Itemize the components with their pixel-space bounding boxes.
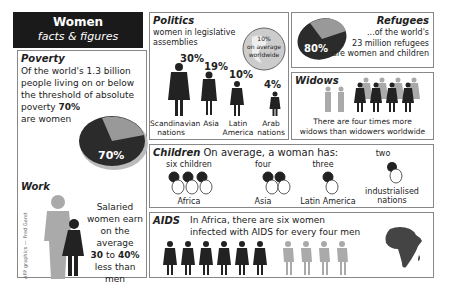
- poverty-pct: 70%: [59, 102, 81, 112]
- poverty-pie-chart: [78, 113, 150, 171]
- children-count-0: six children: [164, 160, 214, 169]
- politics-label-0: Scandinaviannations: [150, 119, 192, 137]
- header-banner: Women facts & figures: [13, 12, 143, 48]
- label-line1: Latin: [222, 119, 254, 128]
- widows-figures: [322, 77, 432, 115]
- children-intro: On average, a woman has:: [204, 147, 339, 158]
- work-line6: less than men: [84, 261, 146, 285]
- children-region-0: Africa: [164, 197, 214, 206]
- label-line2: America: [222, 128, 254, 137]
- label-line1: Asia: [200, 119, 222, 128]
- children-heading: Children On average, a woman has:: [153, 147, 338, 158]
- poverty-pie-label: 70%: [98, 149, 124, 162]
- aids-panel: AIDS In Africa, there are six women infe…: [149, 212, 434, 278]
- children-count-2: three: [308, 160, 338, 169]
- work-line2: women earn: [84, 213, 146, 225]
- africa-map-icon: [382, 225, 424, 271]
- poverty-title: Poverty: [21, 53, 65, 64]
- children-panel: Children On average, a woman has: six ch…: [149, 144, 434, 208]
- politics-label-3: Arabnations: [256, 119, 286, 137]
- children-region-1: Asia: [248, 197, 278, 206]
- header-title: Women: [13, 15, 143, 29]
- header-subtitle: facts & figures: [13, 30, 143, 43]
- politics-figures: [160, 63, 288, 118]
- mother-child-icon-industrialised: [380, 161, 410, 185]
- label-line1: Scandinavian: [150, 119, 192, 128]
- politics-label-1: Asia: [200, 119, 222, 128]
- children-region-3: industrialised nations: [362, 187, 422, 205]
- region-line2: nations: [362, 196, 422, 205]
- globe-line3: worldwide: [242, 51, 286, 59]
- aids-line1: In Africa, there are six women: [190, 215, 360, 227]
- refugees-line1: ...of the world's: [332, 28, 429, 39]
- aids-title: AIDS: [153, 215, 180, 226]
- aids-figures: [162, 241, 372, 277]
- aids-line2: infected with AIDS for every four men: [190, 227, 360, 239]
- work-line4: average: [84, 237, 146, 249]
- work-range-high: 40%: [118, 250, 140, 260]
- region-line1: industrialised: [362, 187, 422, 196]
- aids-text: In Africa, there are six women infected …: [190, 215, 360, 238]
- refugees-line2: 23 million refugees: [332, 39, 429, 50]
- children-title: Children: [153, 147, 200, 158]
- refugees-pie-label: 80%: [304, 43, 328, 54]
- politics-label-2: LatinAmerica: [222, 119, 254, 137]
- politics-panel: Politics women in legislative assemblies…: [149, 12, 289, 140]
- politics-subtitle: women in legislative assemblies: [153, 28, 238, 48]
- work-range-to: to: [106, 250, 115, 260]
- widows-line1: There are four times more: [292, 117, 433, 127]
- credit-text: AFP graphics — Fred Garet: [22, 189, 28, 279]
- label-line2: nations: [256, 128, 286, 137]
- children-region-2: Latin America: [298, 197, 358, 206]
- refugees-panel: 80% Refugees ...of the world's 23 millio…: [291, 12, 434, 68]
- children-count-3: two: [368, 149, 398, 158]
- widows-text: There are four times more widows than wi…: [292, 117, 433, 137]
- refugees-text: ...of the world's 23 million refugees ar…: [332, 28, 429, 60]
- children-count-1: four: [248, 160, 278, 169]
- widows-panel: Widows There are four times more widows …: [291, 72, 434, 140]
- work-text: Salaried women earn on the average 30 to…: [84, 201, 146, 285]
- label-line1: Arab: [256, 119, 286, 128]
- globe-text: 10% on average worldwide: [242, 35, 286, 59]
- widows-line2: widows than widowers worldwide: [292, 127, 433, 137]
- label-line2: nations: [150, 128, 192, 137]
- refugees-line3: are women and children: [332, 49, 429, 60]
- poverty-work-panel: Poverty Of the world's 1.3 billion peopl…: [17, 50, 147, 278]
- globe-pct: 10%: [242, 35, 286, 43]
- work-line3: on the: [84, 225, 146, 237]
- politics-title: Politics: [153, 15, 194, 26]
- poverty-end: are women: [21, 114, 71, 124]
- work-range-low: 30: [91, 250, 104, 260]
- work-line1: Salaried: [84, 201, 146, 213]
- globe-line2: on average: [242, 43, 286, 51]
- refugees-title: Refugees: [377, 15, 429, 26]
